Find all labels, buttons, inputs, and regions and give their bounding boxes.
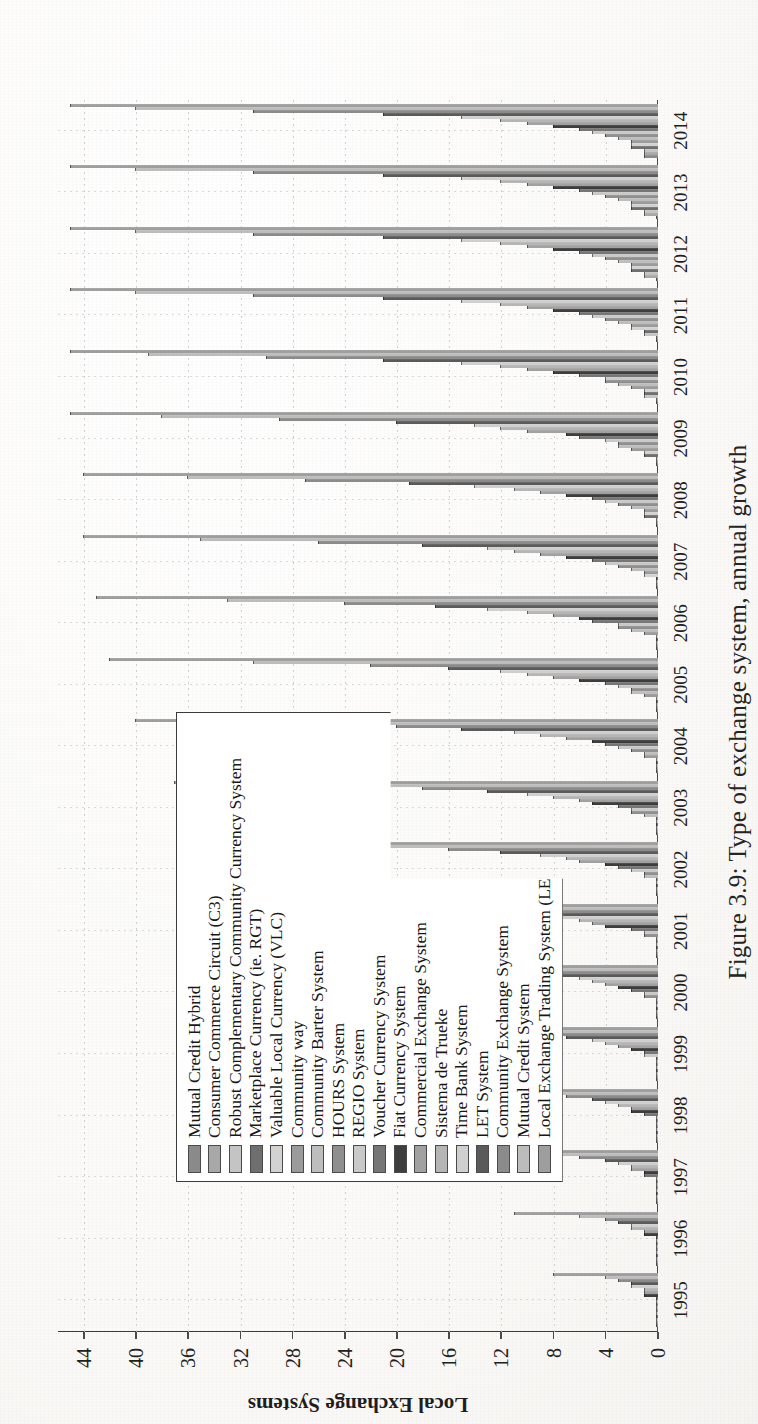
bar: [618, 1104, 658, 1107]
bar: [592, 1098, 658, 1101]
bar: [656, 647, 659, 650]
legend-label: Mutual Credit System: [515, 983, 533, 1138]
bar: [631, 266, 658, 269]
bar: [631, 1224, 658, 1227]
bar: [656, 1236, 659, 1239]
bar: [253, 171, 658, 174]
bar: [540, 553, 658, 556]
bar: [644, 1230, 658, 1233]
bar: [448, 667, 658, 670]
bar: [96, 596, 658, 599]
bar: [631, 688, 658, 691]
bar: [656, 829, 659, 832]
bars: [58, 469, 658, 531]
legend-swatch: [188, 1145, 201, 1173]
bar: [644, 1113, 658, 1116]
bar: [644, 996, 658, 999]
bar: [461, 362, 658, 365]
y-tick-label: 24: [333, 1348, 356, 1368]
bar: [370, 664, 658, 667]
bar: [553, 1273, 658, 1276]
bar: [656, 697, 659, 700]
bar: [656, 336, 659, 339]
bar: [618, 866, 658, 869]
bar: [605, 743, 658, 746]
bar: [618, 805, 658, 808]
bar: [644, 1288, 658, 1291]
bar: [605, 257, 658, 260]
bar: [553, 975, 658, 978]
bars: [58, 1208, 658, 1270]
bar: [656, 1008, 659, 1011]
bar: [656, 1011, 659, 1014]
y-tick-label: 40: [125, 1348, 148, 1368]
bar: [631, 629, 658, 632]
tick-mark: [448, 1332, 450, 1339]
legend-swatch: [456, 1145, 469, 1173]
bar-group: 2013: [58, 162, 658, 224]
bar: [656, 278, 659, 281]
bar: [656, 463, 659, 466]
bar: [344, 602, 658, 605]
bar: [656, 890, 659, 893]
bar: [656, 952, 659, 955]
bar: [656, 518, 659, 521]
bar: [656, 955, 659, 958]
bar: [605, 377, 658, 380]
bar: [656, 339, 659, 342]
bar: [579, 436, 658, 439]
bar: [279, 418, 658, 421]
bar: [656, 1297, 659, 1300]
x-tick-label: 2011: [670, 297, 692, 334]
tick-mark: [187, 1332, 189, 1339]
bar: [514, 731, 658, 734]
legend-item: Marketplace Currency (ie. RGT): [246, 721, 267, 1173]
bar-group: 2011: [58, 285, 658, 347]
bar: [656, 583, 659, 586]
bar: [644, 875, 658, 878]
bars: [58, 162, 658, 224]
bar: [656, 524, 659, 527]
bar: [618, 1162, 658, 1165]
bar: [644, 752, 658, 755]
bar: [527, 793, 658, 796]
legend-label: Valuable Local Currency (VLC): [268, 912, 286, 1138]
bar: [579, 312, 658, 315]
bar-group: 2010: [58, 346, 658, 408]
bar: [605, 134, 658, 137]
bar: [579, 919, 658, 922]
bar: [656, 1242, 659, 1245]
bar: [656, 1180, 659, 1183]
bar: [644, 509, 658, 512]
bar: [644, 1291, 658, 1294]
x-tick-label: 2003: [670, 789, 692, 827]
bar: [656, 823, 659, 826]
figure-caption: Figure 3.9: Type of exchange system, ann…: [724, 0, 752, 1424]
legend-label: Voucher Currency System: [371, 955, 389, 1138]
bar: [656, 1257, 659, 1260]
bar: [656, 1125, 659, 1128]
bar: [656, 946, 659, 949]
x-tick-label: 1999: [670, 1035, 692, 1073]
bar: [487, 608, 658, 611]
bar: [656, 641, 659, 644]
bar: [553, 186, 658, 189]
figure: Local Exchange Systems 04812162024283236…: [0, 0, 758, 1424]
bar: [656, 216, 659, 219]
bar: [540, 734, 658, 737]
bar: [579, 1215, 658, 1218]
legend-label: Community way: [289, 1021, 307, 1138]
x-tick-label: 2009: [670, 420, 692, 458]
bar: [566, 737, 658, 740]
bar: [566, 556, 658, 559]
bar: [253, 233, 658, 236]
legend-swatch: [435, 1145, 448, 1173]
bar: [644, 1051, 658, 1054]
legend-swatch: [476, 1145, 489, 1173]
bar: [553, 796, 658, 799]
bar: [656, 878, 659, 881]
bar: [656, 1014, 659, 1017]
bar: [527, 306, 658, 309]
bar: [656, 709, 659, 712]
bar: [656, 398, 659, 401]
